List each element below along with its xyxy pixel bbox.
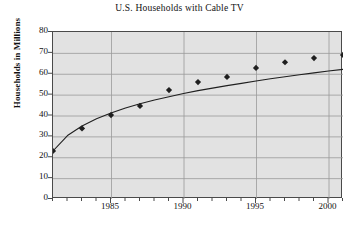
x-tick-label: 1985	[90, 201, 130, 211]
y-tick-label: 40	[2, 110, 48, 119]
vertical-gridlines	[112, 32, 330, 199]
y-axis-tick-labels: 01020304050607080	[0, 0, 48, 227]
y-tick-label: 80	[2, 26, 48, 35]
x-tick-label: 2000	[308, 201, 348, 211]
plot-area	[52, 31, 342, 198]
data-point-markers	[53, 52, 343, 154]
y-tick-label: 20	[2, 151, 48, 160]
x-tick-label: 1995	[235, 201, 275, 211]
y-tick-label: 50	[2, 89, 48, 98]
y-tick-label: 10	[2, 172, 48, 181]
chart-title: U.S. Households with Cable TV	[0, 3, 359, 13]
y-tick-label: 60	[2, 68, 48, 77]
plot-graphics	[53, 32, 343, 199]
y-tick-label: 70	[2, 47, 48, 56]
horizontal-gridlines	[53, 53, 343, 178]
y-tick-label: 30	[2, 130, 48, 139]
y-tick-label: 0	[2, 193, 48, 202]
x-tick-label: 1990	[163, 201, 203, 211]
chart-figure: U.S. Households with Cable TV Households…	[0, 0, 359, 227]
